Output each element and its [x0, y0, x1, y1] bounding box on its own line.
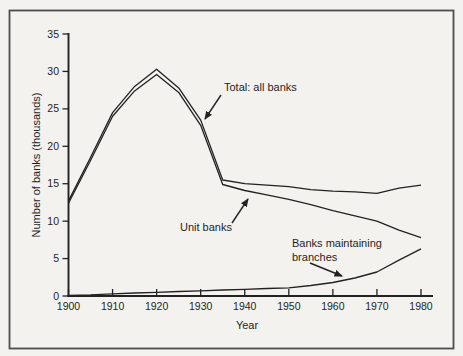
y-tick-label: 30: [47, 65, 59, 77]
x-tick-label: 1980: [409, 300, 433, 312]
y-axis-title: Number of banks (thousands): [30, 93, 42, 238]
x-tick-label: 1930: [189, 300, 213, 312]
annotation-branches-line2: branches: [292, 251, 338, 263]
annotation-unit-banks: Unit banks: [180, 221, 232, 233]
annotation-branches-line1: Banks maintaining: [292, 237, 382, 249]
y-tick-label: 20: [47, 140, 59, 152]
x-tick-label: 1900: [57, 300, 81, 312]
x-tick-label: 1970: [365, 300, 389, 312]
x-tick-label: 1950: [277, 300, 301, 312]
y-tick-label: 5: [53, 252, 59, 264]
y-tick-label: 25: [47, 102, 59, 114]
scanned-figure-page: 05101520253035 1900191019201930194019501…: [0, 0, 463, 356]
y-tick-label: 35: [47, 28, 59, 40]
x-tick-label: 1960: [321, 300, 345, 312]
annotation-arrow-total: [205, 95, 221, 119]
x-axis-ticks: 190019101920193019401950196019701980: [57, 289, 433, 312]
figure-frame: [10, 11, 454, 349]
series-line-banks-maintaining-branches: [69, 249, 422, 295]
x-tick-label: 1910: [101, 300, 125, 312]
y-tick-label: 15: [47, 177, 59, 189]
annotation-arrow-unit: [232, 199, 248, 223]
annotation-arrow-branches: [310, 263, 342, 276]
y-axis-ticks: 05101520253035: [47, 28, 68, 302]
annotation-total-all-banks: Total: all banks: [224, 81, 297, 93]
bank-structure-line-chart: 05101520253035 1900191019201930194019501…: [0, 0, 463, 356]
data-series-lines: [69, 69, 422, 295]
y-tick-label: 10: [47, 215, 59, 227]
x-axis-title: Year: [236, 319, 259, 331]
x-tick-label: 1920: [145, 300, 169, 312]
x-tick-label: 1940: [233, 300, 257, 312]
series-line-unit-banks: [69, 74, 422, 237]
